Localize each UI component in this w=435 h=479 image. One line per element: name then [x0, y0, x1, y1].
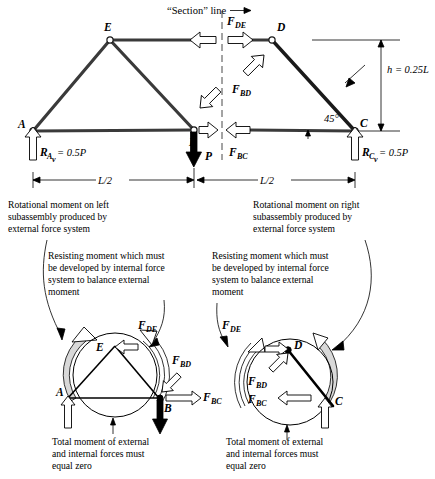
left-moment-band-outer [63, 327, 97, 401]
bl-node-label-B: B [163, 402, 172, 414]
br-node-label-D: D [293, 339, 303, 351]
member-AB [33, 130, 194, 131]
svg-text:DE: DE [229, 325, 241, 334]
svg-text:subassembly produced by: subassembly produced by [253, 211, 352, 222]
svg-text:Total moment of external: Total moment of external [52, 436, 149, 447]
svg-text:BC: BC [236, 152, 248, 161]
svg-text:subassembly produced by: subassembly produced by [8, 211, 107, 222]
dim-height-label: h = 0.25L [387, 64, 429, 75]
svg-text:F: F [247, 393, 256, 405]
svg-text:Resisting moment which must: Resisting moment which must [212, 250, 329, 261]
force-arrow-FBD-lower-right [240, 49, 270, 79]
svg-text:system to balance external: system to balance external [48, 274, 150, 285]
force-label-FBC: F BC [228, 146, 248, 161]
svg-text:F: F [226, 15, 235, 27]
member-EB [110, 40, 194, 130]
annotation-right-resisting: Resisting moment which must be developed… [212, 250, 329, 297]
applied-load-label-P: P [205, 150, 213, 162]
force-arrow-FDE-left [190, 32, 216, 48]
node-label-D: D [276, 21, 286, 33]
svg-text:equal zero: equal zero [226, 460, 266, 471]
svg-text:be developed by internal force: be developed by internal force [212, 262, 329, 273]
member-AE [33, 40, 110, 131]
br-force-label-FBC: F BC [247, 393, 267, 408]
section-line-leader-arrow [230, 8, 251, 14]
svg-text:moment: moment [48, 286, 80, 297]
svg-text:equal zero: equal zero [52, 460, 92, 471]
annotation-left-rotational: Rotational moment on left subassembly pr… [8, 199, 109, 234]
svg-text:DE: DE [234, 21, 246, 30]
bl-force-label-FBC: F BC [202, 391, 222, 406]
member-DC [272, 40, 355, 131]
dim-height-arrow [378, 40, 384, 131]
bl-node-label-A: A [55, 386, 64, 398]
span-dim-left [33, 177, 194, 183]
svg-text:Rotational moment on right: Rotational moment on right [253, 199, 360, 210]
svg-text:F: F [221, 319, 230, 331]
svg-text:be developed by internal force: be developed by internal force [48, 262, 165, 273]
svg-text:BD: BD [255, 381, 267, 390]
span-dim-right [197, 177, 355, 183]
svg-text:BC: BC [210, 397, 222, 406]
svg-text:F: F [171, 354, 180, 366]
svg-text:F: F [231, 83, 240, 95]
svg-text:Total moment of external: Total moment of external [226, 436, 323, 447]
svg-text:DE: DE [145, 325, 157, 334]
span-label-left: L/2 [97, 175, 113, 186]
reaction-label-A: R A v = 0.5P [39, 146, 87, 164]
angle-label-45: 45° [324, 113, 340, 124]
force-label-FDE: F DE [226, 15, 246, 30]
bl-node-label-E: E [95, 341, 104, 353]
section-line-label: “Section” line [167, 5, 227, 16]
svg-text:BC: BC [255, 399, 267, 408]
br-total-moment-text: Total moment of external and internal fo… [226, 436, 323, 471]
bl-reaction-arrow-A [61, 396, 75, 428]
member-BC-right [249, 130, 355, 131]
svg-text:BD: BD [239, 89, 251, 98]
node-label-C: C [360, 117, 368, 129]
svg-text:= 0.5P: = 0.5P [379, 147, 409, 158]
bl-force-arrow-FDE [115, 340, 138, 354]
br-force-label-FDE: F DE [221, 319, 241, 334]
member-DC-pointer [345, 65, 365, 87]
leader-right-rotational [336, 240, 371, 348]
br-force-arrow-FBC [278, 391, 311, 405]
force-arrow-FDE-right [228, 32, 253, 48]
node-D [269, 37, 275, 43]
svg-text:F: F [202, 391, 211, 403]
svg-text:F: F [228, 146, 237, 158]
node-E [107, 37, 113, 43]
left-subassembly-circle [73, 333, 157, 417]
svg-text:F: F [247, 375, 256, 387]
svg-text:system to balance external: system to balance external [212, 274, 314, 285]
bl-force-label-FBD: F BD [171, 354, 191, 369]
bl-total-moment-text: Total moment of external and internal fo… [52, 436, 149, 471]
svg-text:and internal forces must: and internal forces must [52, 448, 145, 459]
svg-text:= 0.5P: = 0.5P [57, 147, 87, 158]
br-moment-band-outer [313, 333, 337, 402]
node-label-A: A [17, 118, 26, 130]
svg-text:Rotational moment on left: Rotational moment on left [8, 199, 109, 210]
bl-total-moment-pointer [111, 418, 116, 434]
annotation-right-rotational: Rotational moment on right subassembly p… [253, 199, 360, 234]
svg-text:external force system: external force system [8, 223, 91, 234]
span-label-right: L/2 [259, 175, 275, 186]
reaction-label-C: R C v = 0.5P [361, 146, 409, 164]
svg-text:F: F [137, 319, 146, 331]
statics-method-of-sections-figure: “Section” line A B C D E F DE F BD [0, 0, 435, 479]
annotation-left-resisting: Resisting moment which must be developed… [48, 250, 165, 297]
leader-left-rotational-head [57, 328, 65, 340]
force-label-FBD: F BD [231, 83, 251, 98]
svg-text:BD: BD [179, 360, 191, 369]
node-label-E: E [103, 21, 112, 33]
br-node-label-C: C [335, 395, 343, 407]
force-arrow-FBC-left [226, 122, 250, 138]
svg-text:v: v [374, 155, 378, 164]
svg-text:external force system: external force system [253, 223, 336, 234]
force-arrow-FBC-right [199, 122, 218, 138]
leader-right-rotational-head [332, 341, 344, 350]
svg-text:v: v [52, 155, 56, 164]
leader-right-resisting-head [220, 336, 228, 347]
svg-text:moment: moment [212, 286, 244, 297]
svg-text:and internal forces must: and internal forces must [226, 448, 319, 459]
